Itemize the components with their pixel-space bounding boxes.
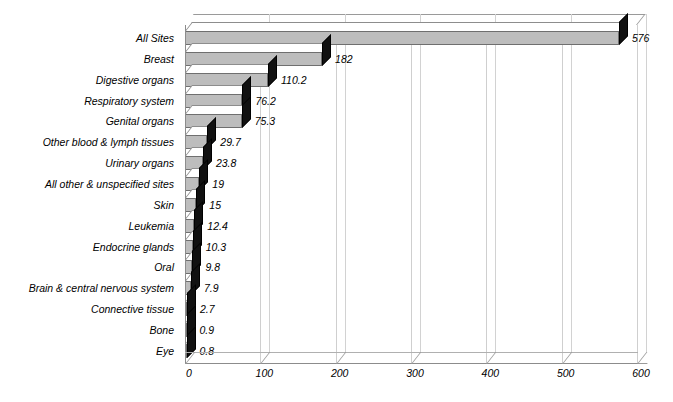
category-label: Leukemia <box>0 220 174 232</box>
tick-label: 300 <box>406 367 424 379</box>
tick-label: 600 <box>632 367 650 379</box>
category-label: All Sites <box>0 32 174 44</box>
bar-value-label: 0.9 <box>200 324 215 336</box>
bar-top-face <box>185 85 249 94</box>
bar-value-label: 110.2 <box>281 74 307 86</box>
bar-value-label: 19 <box>212 178 224 190</box>
horizontal-bar-chart: All SitesBreastDigestive organsRespirato… <box>0 0 673 402</box>
tick-label: 500 <box>557 367 575 379</box>
value-axis-baseline <box>185 25 186 364</box>
category-label: Endocrine glands <box>0 241 174 253</box>
category-label: Other blood & lymph tissues <box>0 136 174 148</box>
bar-value-label: 9.8 <box>205 261 220 273</box>
plot-area: 576182110.276.275.329.723.8191512.410.39… <box>185 0 673 402</box>
bar-value-label: 23.8 <box>216 157 236 169</box>
bar-value-label: 7.9 <box>204 282 219 294</box>
gridline <box>571 14 572 352</box>
bar-top-face <box>185 64 275 73</box>
category-label: Genital organs <box>0 115 174 127</box>
category-label: Eye <box>0 345 174 357</box>
category-label: Urinary organs <box>0 157 174 169</box>
bar-top-face <box>185 43 329 52</box>
gridline <box>411 25 412 363</box>
gridline <box>486 25 487 363</box>
tick-label: 200 <box>331 367 349 379</box>
category-label: Connective tissue <box>0 303 174 315</box>
tick-label: 400 <box>482 367 500 379</box>
gridline <box>562 25 563 363</box>
bar-value-label: 576 <box>632 32 650 44</box>
bar-value-label: 15 <box>209 199 221 211</box>
tick-label: 0 <box>186 367 192 379</box>
bar-value-label: 182 <box>335 53 353 65</box>
gridline <box>495 14 496 352</box>
category-label: Bone <box>0 324 174 336</box>
gridline <box>336 25 337 363</box>
gridline <box>420 14 421 352</box>
bar-value-label: 0.8 <box>200 345 215 357</box>
category-label: Oral <box>0 261 174 273</box>
category-axis: All SitesBreastDigestive organsRespirato… <box>0 0 180 402</box>
bar-value-label: 29.7 <box>220 136 240 148</box>
gridline <box>637 25 638 363</box>
bar-value-label: 12.4 <box>207 220 227 232</box>
category-label: Respiratory system <box>0 95 174 107</box>
category-label: Digestive organs <box>0 74 174 86</box>
bar-top-face <box>185 22 626 31</box>
category-label: Breast <box>0 53 174 65</box>
bar-value-label: 76.2 <box>255 95 275 107</box>
category-label: All other & unspecified sites <box>0 178 174 190</box>
bar-top-face <box>185 105 249 114</box>
bar-value-label: 10.3 <box>206 241 226 253</box>
tick-label: 100 <box>256 367 274 379</box>
category-label: Brain & central nervous system <box>0 282 174 294</box>
gridline <box>646 14 647 352</box>
bar-value-label: 75.3 <box>255 115 275 127</box>
category-label: Skin <box>0 199 174 211</box>
bar-value-label: 2.7 <box>200 303 215 315</box>
